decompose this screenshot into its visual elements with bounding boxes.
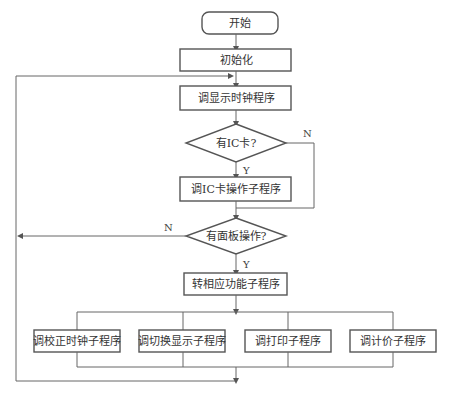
ic-yes-label: Y xyxy=(242,165,250,176)
ic-card-decision: 有IC卡? xyxy=(186,124,286,162)
sub-switch-display-node: 调切换显示子程序 xyxy=(138,330,226,352)
sub-pricing-label: 调计价子程序 xyxy=(360,334,426,348)
ic-card-decision-label: 有IC卡? xyxy=(216,136,257,150)
start-label: 开始 xyxy=(229,16,251,30)
sub-adjust-clock-label: 调校正时钟子程序 xyxy=(33,334,121,348)
flowchart: 开始 初始化 调显示时钟程序 有IC卡? N Y 调IC卡操作子程序 有面板操作… xyxy=(0,0,449,396)
sub-pricing-node: 调计价子程序 xyxy=(350,330,436,352)
panel-op-decision: 有面板操作? xyxy=(186,218,286,254)
dispatch-label: 转相应功能子程序 xyxy=(192,277,280,291)
start-node: 开始 xyxy=(202,12,278,34)
panel-op-decision-label: 有面板操作? xyxy=(206,229,267,243)
show-clock-node: 调显示时钟程序 xyxy=(180,86,291,110)
init-node: 初始化 xyxy=(180,49,291,71)
panel-no-label: N xyxy=(164,222,173,233)
show-clock-label: 调显示时钟程序 xyxy=(198,91,275,105)
dispatch-node: 转相应功能子程序 xyxy=(184,273,287,295)
sub-switch-display-label: 调切换显示子程序 xyxy=(138,334,226,348)
ic-card-sub-node: 调IC卡操作子程序 xyxy=(180,177,291,201)
sub-print-label: 调打印子程序 xyxy=(255,334,321,348)
init-label: 初始化 xyxy=(220,53,253,67)
ic-card-sub-label: 调IC卡操作子程序 xyxy=(191,182,281,196)
sub-print-node: 调打印子程序 xyxy=(245,330,331,352)
sub-adjust-clock-node: 调校正时钟子程序 xyxy=(33,330,121,352)
ic-no-label: N xyxy=(303,128,312,139)
panel-yes-label: Y xyxy=(242,259,250,270)
